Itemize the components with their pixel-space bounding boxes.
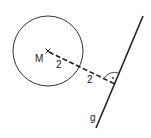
center-label: M xyxy=(35,53,43,64)
geometry-diagram: M 2 2 g xyxy=(0,0,151,138)
line-label: g xyxy=(90,112,96,123)
line-g xyxy=(96,16,143,128)
segment-label-1: 2 xyxy=(56,59,62,70)
segment-label-2: 2 xyxy=(87,74,93,85)
right-angle-dot xyxy=(112,77,114,79)
